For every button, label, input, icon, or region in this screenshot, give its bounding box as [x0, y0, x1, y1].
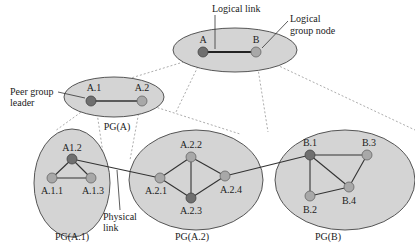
node-b2-label: B.2 — [303, 204, 317, 215]
node-a2-label: A.2 — [135, 82, 150, 93]
pnni-hierarchy-diagram: A B Logical link Logical group node A.1 … — [0, 0, 415, 251]
node-a2-2[interactable] — [186, 152, 196, 162]
peer-group-leader-annotation-1: Peer group — [10, 86, 54, 97]
node-a2[interactable] — [137, 96, 147, 106]
logical-group-ellipse — [173, 28, 297, 72]
logical-group-node-annotation-2: group node — [290, 25, 336, 36]
pg-b-label: PG(B) — [315, 231, 341, 243]
node-b1-label: B.1 — [303, 137, 317, 148]
node-a[interactable] — [198, 47, 208, 57]
node-b4-label: B.4 — [342, 195, 356, 206]
node-a1-3[interactable] — [86, 173, 96, 183]
node-a1-2-label: A1.2 — [62, 142, 82, 153]
pg-a-label: PG(A) — [104, 121, 131, 133]
node-a2-4[interactable] — [220, 171, 230, 181]
node-b[interactable] — [251, 47, 261, 57]
node-a1-1[interactable] — [47, 173, 57, 183]
node-b3-label: B.3 — [362, 137, 376, 148]
node-b2[interactable] — [305, 191, 315, 201]
pg-b-ellipse — [275, 130, 415, 230]
pg-a1-label: PG(A.1) — [55, 231, 89, 243]
logical-link-annotation: Logical link — [212, 3, 261, 14]
node-b4[interactable] — [344, 182, 354, 192]
pg-a2-label: PG(A.2) — [175, 231, 209, 243]
logical-group-node-annotation-1: Logical — [290, 13, 321, 24]
physical-link-annotation-1: Physical — [103, 211, 137, 222]
node-a-label: A — [199, 34, 207, 45]
peer-group-leader-annotation-2: leader — [10, 97, 35, 108]
node-a1-3-label: A.1.3 — [82, 185, 104, 196]
node-b1[interactable] — [305, 150, 315, 160]
node-a1[interactable] — [86, 96, 96, 106]
node-a2-2-label: A.2.2 — [180, 139, 202, 150]
node-b-label: B — [253, 34, 260, 45]
node-a1-1-label: A.1.1 — [41, 185, 63, 196]
physical-link-annotation-2: link — [103, 222, 119, 233]
node-a2-3-label: A.2.3 — [180, 205, 202, 216]
node-a2-1[interactable] — [155, 173, 165, 183]
node-b3[interactable] — [362, 150, 372, 160]
physical-link-pointer — [117, 170, 120, 210]
node-a1-2[interactable] — [67, 154, 77, 164]
node-a2-3[interactable] — [186, 193, 196, 203]
node-a2-4-label: A.2.4 — [220, 184, 242, 195]
node-a2-1-label: A.2.1 — [145, 185, 167, 196]
node-a1-label: A.1 — [87, 82, 102, 93]
